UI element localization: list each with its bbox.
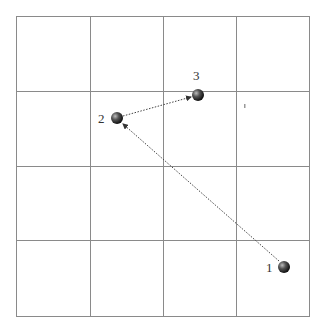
small-mark xyxy=(244,104,246,108)
ball-1 xyxy=(278,261,290,273)
label-3: 3 xyxy=(193,68,200,83)
label-1: 1 xyxy=(266,260,273,275)
arrow-2-to-3 xyxy=(123,97,191,116)
arrows xyxy=(123,97,279,261)
ball-2 xyxy=(111,112,123,124)
label-2: 2 xyxy=(98,111,105,126)
grid-diagram: 1 2 3 xyxy=(0,0,325,331)
ball-3 xyxy=(192,89,204,101)
points xyxy=(111,89,290,273)
labels: 1 2 3 xyxy=(98,68,273,275)
